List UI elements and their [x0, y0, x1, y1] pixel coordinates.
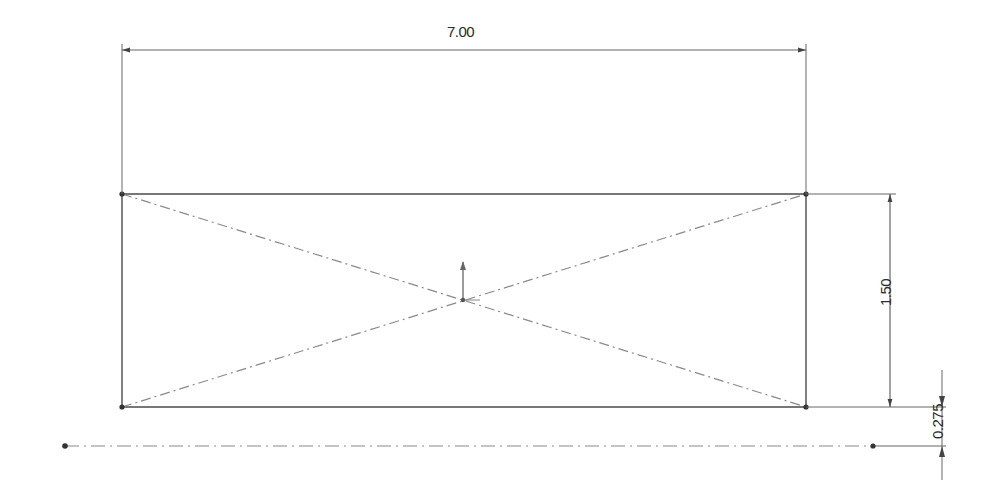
dimension-label-height[interactable]: 1.50: [878, 279, 893, 306]
centerline[interactable]: [62, 443, 946, 449]
sketch-canvas[interactable]: 7.00 1.50 0.275: [0, 0, 991, 500]
centerline-endpoint-left[interactable]: [62, 443, 68, 449]
centerline-endpoint-right[interactable]: [870, 443, 875, 448]
dimension-height[interactable]: [806, 194, 946, 407]
dimension-label-width[interactable]: 7.00: [447, 24, 474, 39]
sketch-drawing: [0, 0, 991, 500]
dimension-width[interactable]: [122, 44, 806, 194]
corner-point-bottom-left[interactable]: [119, 404, 124, 409]
dimension-label-offset[interactable]: 0.275: [930, 404, 945, 439]
origin-icon[interactable]: [460, 261, 480, 302]
